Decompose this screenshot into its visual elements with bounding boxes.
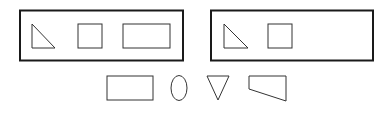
left-shape-group	[20, 11, 183, 61]
square-shape	[78, 24, 102, 48]
answer-options	[107, 76, 286, 102]
option-rectangle[interactable]	[107, 76, 153, 100]
shape-puzzle-figure	[0, 0, 388, 118]
option-ellipse[interactable]	[171, 76, 187, 101]
option-inverted-triangle[interactable]	[207, 76, 229, 100]
right-shape-group	[211, 11, 373, 61]
option-trapezoid[interactable]	[249, 76, 286, 101]
right-triangle-shape	[224, 24, 248, 48]
rectangle-shape	[123, 24, 170, 48]
right-triangle-shape	[32, 24, 55, 48]
square-shape	[268, 24, 292, 48]
